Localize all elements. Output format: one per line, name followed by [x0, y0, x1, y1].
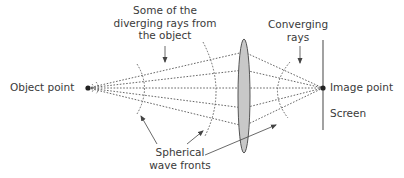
wave-fronts-line-1: Spherical [140, 146, 220, 159]
diverging-rays-label: Some of the diverging rays from the obje… [112, 4, 218, 42]
diverging-rays-line-2: diverging rays from [112, 17, 218, 30]
wave-fronts-line-2: wave fronts [140, 159, 220, 172]
wave-fronts [92, 42, 290, 136]
converging-rays-line-2: rays [266, 31, 330, 44]
diverging-rays-line-3: the object [112, 29, 218, 42]
object-point-label: Object point [10, 81, 74, 94]
converging-rays-label: Converging rays [266, 18, 330, 43]
convex-lens [238, 39, 250, 153]
object-point-dot [85, 85, 90, 90]
converging-rays-line-1: Converging [266, 18, 330, 31]
optics-diagram: Object point Image point Screen Some of … [0, 0, 404, 178]
diverging-rays [88, 52, 244, 126]
diverging-rays-line-1: Some of the [112, 4, 218, 17]
label-arrows [141, 46, 300, 155]
image-point-label: Image point [330, 81, 393, 94]
image-point-dot [320, 85, 325, 90]
wave-fronts-label: Spherical wave fronts [140, 146, 220, 171]
screen-label: Screen [330, 107, 366, 120]
converging-rays [244, 52, 323, 126]
